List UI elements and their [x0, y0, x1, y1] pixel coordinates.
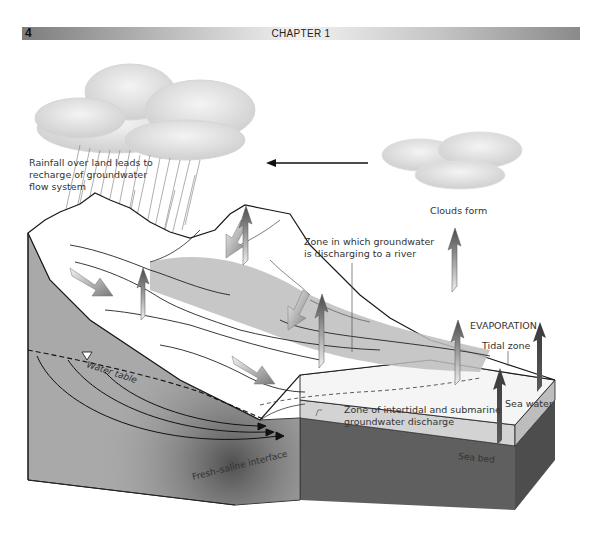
rain-cloud-icon	[35, 64, 255, 160]
intertidal-label-line2: groundwater discharge	[344, 416, 454, 427]
rainfall-label-line2: recharge of groundwater	[29, 169, 147, 180]
tidal-zone-label: Tidal zone	[481, 340, 530, 351]
clouds-form-label: Clouds form	[430, 205, 487, 216]
rainfall-label-line3: flow system	[29, 181, 86, 192]
rainfall-label-line1: Rainfall over land leads to	[29, 157, 153, 168]
river-zone-label-line1: Zone in which groundwater	[304, 236, 434, 247]
intertidal-label-line1: Zone of intertidal and submarine	[344, 404, 501, 415]
river-zone-label-line2: is discharging to a river	[304, 248, 416, 259]
evaporation-label: EVAPORATION	[470, 320, 537, 331]
sea-block	[300, 360, 555, 510]
cloud-movement-arrow-icon	[266, 159, 368, 167]
sea-water-label: Sea water	[505, 398, 553, 409]
water-cycle-diagram: Rainfall over land leads to recharge of …	[0, 0, 603, 544]
forming-cloud-icon	[382, 132, 522, 189]
